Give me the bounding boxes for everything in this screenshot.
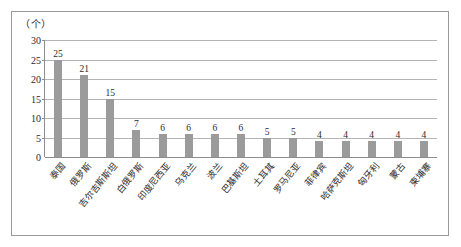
bar-value-label: 7 [134, 119, 139, 129]
bar[interactable] [80, 75, 88, 157]
bar[interactable] [289, 138, 297, 158]
bar-value-label: 4 [422, 130, 427, 140]
bar-slot: 5罗马尼亚 [280, 40, 306, 157]
bar-value-label: 4 [343, 130, 348, 140]
bar[interactable] [54, 60, 62, 158]
y-tick-label-15: 15 [31, 93, 41, 104]
y-axis-unit-label: （个） [20, 16, 52, 31]
y-tick-label-0: 0 [36, 152, 41, 163]
bar-value-label: 6 [160, 123, 165, 133]
bar-slot: 5土耳其 [254, 40, 280, 157]
bar-value-label: 4 [317, 130, 322, 140]
y-tick-label-20: 20 [31, 74, 41, 85]
bar-value-label: 6 [186, 123, 191, 133]
bar-slot: 6波兰 [202, 40, 228, 157]
bar-slot: 4匈牙利 [359, 40, 385, 157]
bar[interactable] [132, 130, 140, 157]
plot-area: 051015202530 25泰国21俄罗斯15吉尔吉斯斯坦7白俄罗斯6印度尼西… [45, 40, 437, 157]
bar-slot: 6巴基斯坦 [228, 40, 254, 157]
y-tick-label-30: 30 [31, 35, 41, 46]
bar-slot: 6乌克兰 [176, 40, 202, 157]
bar[interactable] [342, 141, 350, 157]
bar-value-label: 4 [369, 130, 374, 140]
bar-slot: 4蒙古 [385, 40, 411, 157]
category-label: 乌克兰 [171, 160, 198, 189]
y-tick-label-10: 10 [31, 113, 41, 124]
chart-frame: （个） 051015202530 25泰国21俄罗斯15吉尔吉斯斯坦7白俄罗斯6… [11, 11, 449, 236]
bar-series: 25泰国21俄罗斯15吉尔吉斯斯坦7白俄罗斯6印度尼西亚6乌克兰6波兰6巴基斯坦… [45, 40, 437, 157]
bar-value-label: 6 [239, 123, 244, 133]
bar-value-label: 5 [265, 127, 270, 137]
category-label: 罗马尼亚 [270, 160, 303, 196]
y-tick-label-5: 5 [36, 132, 41, 143]
bar[interactable] [211, 134, 219, 157]
bar-value-label: 25 [53, 49, 63, 59]
bar-slot: 7白俄罗斯 [123, 40, 149, 157]
bar-slot: 25泰国 [45, 40, 71, 157]
bar[interactable] [394, 141, 402, 157]
category-label: 巴基斯坦 [218, 160, 251, 196]
bar-slot: 4哈萨克斯坦 [332, 40, 358, 157]
bar[interactable] [185, 134, 193, 157]
bar-slot: 21俄罗斯 [71, 40, 97, 157]
bar[interactable] [368, 141, 376, 157]
bar[interactable] [315, 141, 323, 157]
category-label: 波兰 [203, 160, 225, 182]
bar-value-label: 5 [291, 127, 296, 137]
category-label: 蒙古 [386, 160, 408, 182]
bar-value-label: 4 [395, 130, 400, 140]
bar[interactable] [159, 134, 167, 157]
y-tick-label-25: 25 [31, 54, 41, 65]
bar-slot: 6印度尼西亚 [150, 40, 176, 157]
bar[interactable] [263, 138, 271, 158]
bar-slot: 4柬埔寨 [411, 40, 437, 157]
bar-value-label: 6 [212, 123, 217, 133]
category-label: 柬埔寨 [407, 160, 434, 189]
bar[interactable] [106, 99, 114, 158]
bar[interactable] [420, 141, 428, 157]
bar-slot: 15吉尔吉斯斯坦 [97, 40, 123, 157]
category-label: 泰国 [46, 160, 68, 182]
category-label: 匈牙利 [354, 160, 381, 189]
gridline-0 [45, 157, 437, 158]
bar-slot: 4菲律宾 [306, 40, 332, 157]
bar[interactable] [237, 134, 245, 157]
bar-value-label: 21 [79, 64, 89, 74]
bar-value-label: 15 [106, 88, 116, 98]
